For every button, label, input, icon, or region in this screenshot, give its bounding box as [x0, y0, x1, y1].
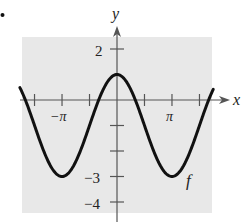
x-axis-label: x	[232, 91, 240, 108]
y-axis-label: y	[110, 5, 120, 23]
y-tick-label-neg3: −3	[84, 170, 100, 186]
cosine-graph: y x f −π π 2 −3 −4	[0, 0, 248, 223]
x-tick-label-pi: π	[166, 109, 174, 124]
y-tick-label-neg4: −4	[84, 196, 100, 212]
y-tick-label-2: 2	[95, 43, 103, 59]
x-tick-label-neg-pi: −π	[50, 109, 67, 124]
bullet-dot	[1, 13, 5, 17]
